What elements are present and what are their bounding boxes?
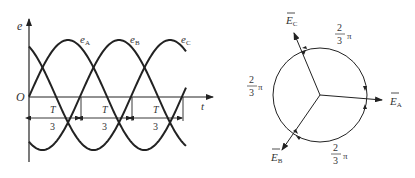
svg-text:π: π [343,151,348,161]
svg-text:3: 3 [50,121,55,132]
curve-label-eB: eB [130,33,140,47]
phasor-diagram: EA EB EC 2 3 π 2 3 π 2 3 π [247,13,402,166]
svg-text:3: 3 [153,121,158,132]
curve-eB [29,40,186,150]
curve-eC [29,40,186,150]
curve-eA [29,40,186,150]
phasor-label-EC: EC [285,14,298,28]
svg-text:π: π [258,82,263,92]
svg-text:T: T [153,104,160,115]
angle-label-top: 2 3 π [335,22,352,46]
origin-label: O [16,90,25,104]
svg-text:3: 3 [333,155,338,166]
svg-text:2: 2 [333,142,338,153]
svg-text:3: 3 [249,87,254,98]
curve-label-eA: eA [80,33,90,47]
svg-text:2: 2 [337,22,342,33]
svg-text:2: 2 [249,74,254,85]
three-phase-diagram: e t O eA eB eC T 3 T 3 T 3 [0,0,415,178]
phasor-label-EB: EB [270,151,283,165]
svg-text:3: 3 [102,121,107,132]
svg-text:π: π [347,31,352,41]
angle-label-left: 2 3 π [247,74,263,98]
phasor-label-EA: EA [389,95,402,109]
curve-label-eC: eC [181,33,191,47]
svg-text:T: T [102,104,109,115]
phasor-EC [294,33,320,95]
t-axis-label: t [201,100,205,112]
waveform-plot: e t O eA eB eC T 3 T 3 T 3 [16,19,213,162]
phasor-EA [320,95,382,100]
angle-label-bottom: 2 3 π [331,142,348,166]
y-axis-label: e [17,19,23,33]
svg-text:3: 3 [337,35,342,46]
svg-text:T: T [50,104,57,115]
